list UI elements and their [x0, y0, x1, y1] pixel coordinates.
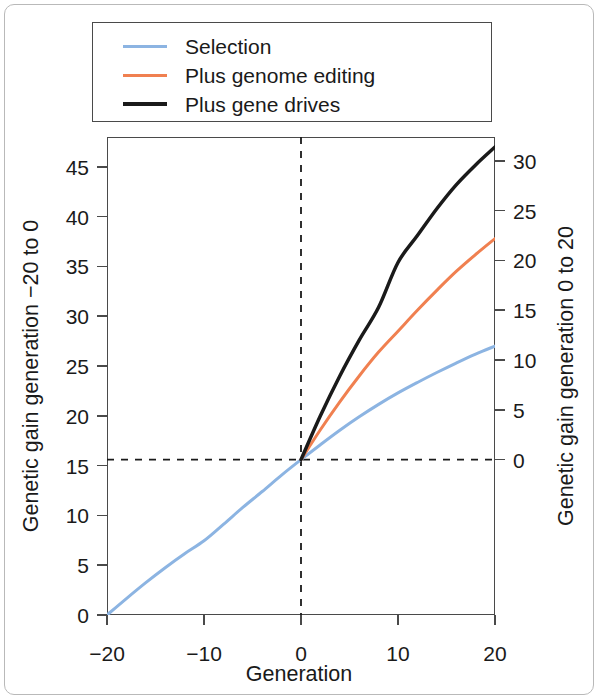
legend-label: Plus gene drives [185, 94, 340, 115]
right-tick-mark [495, 210, 505, 212]
x-tick-mark [106, 615, 108, 625]
right-tick-label: 30 [513, 150, 557, 171]
x-tick-label: 20 [483, 643, 506, 664]
left-tick-mark [97, 564, 107, 566]
left-tick-label: 45 [31, 156, 89, 177]
legend-item-plus-gene-drives: Plus gene drives [93, 89, 491, 119]
right-tick-mark [495, 309, 505, 311]
legend-swatch-line [123, 45, 167, 48]
left-tick-mark [97, 515, 107, 517]
x-tick-mark [203, 615, 205, 625]
legend-label: Plus genome editing [185, 65, 375, 86]
right-tick-label: 0 [513, 449, 557, 470]
x-tick-label: 0 [295, 643, 307, 664]
left-tick-label: 0 [31, 605, 89, 626]
right-tick-mark [495, 160, 505, 162]
legend-swatch-line [123, 74, 167, 77]
left-tick-mark [97, 315, 107, 317]
left-axis-title: Genetic gain generation −20 to 0 [21, 220, 43, 533]
legend-label: Selection [185, 36, 271, 57]
plot-drawing-area [107, 137, 495, 615]
x-tick-label: −10 [186, 643, 222, 664]
right-tick-mark [495, 359, 505, 361]
left-tick-mark [97, 216, 107, 218]
left-tick-mark [97, 266, 107, 268]
right-tick-label: 10 [513, 350, 557, 371]
right-tick-label: 5 [513, 399, 557, 420]
legend-item-plus-genome-editing: Plus genome editing [93, 60, 491, 90]
series-line-plus-genome-editing [301, 239, 495, 460]
series-line-plus-gene-drives [301, 147, 495, 460]
x-tick-mark [494, 615, 496, 625]
right-tick-label: 15 [513, 300, 557, 321]
figure-panel: SelectionPlus genome editingPlus gene dr… [0, 0, 598, 699]
left-tick-label: 5 [31, 555, 89, 576]
legend-swatch-line [123, 102, 167, 106]
x-tick-mark [300, 615, 302, 625]
left-tick-mark [97, 465, 107, 467]
right-tick-mark [495, 409, 505, 411]
x-tick-mark [397, 615, 399, 625]
left-tick-mark [97, 365, 107, 367]
right-axis-title: Genetic gain generation 0 to 20 [556, 226, 578, 526]
chart-legend: SelectionPlus genome editingPlus gene dr… [92, 22, 492, 122]
legend-item-selection: Selection [93, 31, 491, 61]
x-tick-label: 10 [386, 643, 409, 664]
x-axis-title: Generation [246, 664, 352, 686]
right-tick-mark [495, 260, 505, 262]
right-tick-label: 25 [513, 200, 557, 221]
right-tick-label: 20 [513, 250, 557, 271]
left-tick-mark [97, 166, 107, 168]
right-tick-mark [495, 459, 505, 461]
x-tick-label: −20 [89, 643, 125, 664]
left-tick-mark [97, 415, 107, 417]
